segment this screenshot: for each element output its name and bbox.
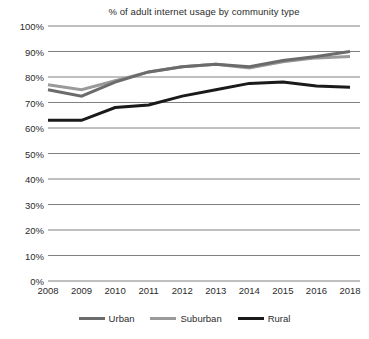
y-tick-label: 100% (2, 21, 44, 32)
legend-swatch-suburban (150, 317, 176, 321)
plot-area: 0%10%20%30%40%50%60%70%80%90%100% (0, 0, 369, 300)
y-tick-label: 40% (2, 174, 44, 185)
y-tick-label: 50% (2, 148, 44, 159)
x-tick-label: 2011 (138, 285, 158, 296)
y-tick-label: 90% (2, 46, 44, 57)
x-tick-label: 2009 (71, 285, 92, 296)
x-tick-label: 2016 (306, 285, 327, 296)
x-axis-labels: 2008200920102011201220132014201520162018 (0, 285, 369, 303)
y-tick-label: 70% (2, 97, 44, 108)
y-tick-label: 10% (2, 250, 44, 261)
y-tick-label: 20% (2, 225, 44, 236)
x-tick-label: 2012 (172, 285, 193, 296)
x-tick-label: 2015 (272, 285, 293, 296)
series-lines (0, 0, 369, 300)
series-line-urban (48, 52, 350, 97)
legend-label: Rural (268, 313, 291, 324)
y-tick-label: 60% (2, 123, 44, 134)
legend-entry-suburban[interactable]: Suburban (150, 313, 221, 324)
legend-swatch-rural (238, 317, 264, 321)
chart-figure: % of adult internet usage by community t… (0, 0, 369, 339)
legend-entry-rural[interactable]: Rural (238, 313, 291, 324)
y-tick-label: 80% (2, 72, 44, 83)
x-tick-label: 2013 (205, 285, 226, 296)
legend-label: Urban (109, 313, 135, 324)
x-tick-label: 2008 (37, 285, 58, 296)
y-axis-labels: 0%10%20%30%40%50%60%70%80%90%100% (0, 0, 44, 300)
legend-entry-urban[interactable]: Urban (79, 313, 135, 324)
legend-swatch-urban (79, 317, 105, 321)
chart-legend: UrbanSuburbanRural (0, 313, 369, 324)
legend-label: Suburban (180, 313, 221, 324)
x-tick-label: 2018 (339, 285, 360, 296)
x-tick-label: 2014 (239, 285, 260, 296)
x-tick-label: 2010 (105, 285, 126, 296)
y-tick-label: 30% (2, 199, 44, 210)
